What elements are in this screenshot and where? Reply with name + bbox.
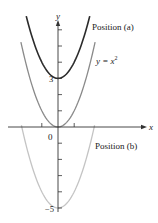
equation-label: y = x2 bbox=[95, 55, 118, 66]
position-a-label: Position (a) bbox=[92, 22, 134, 32]
origin-label: 0 bbox=[48, 132, 53, 142]
tick-label-3: 3 bbox=[49, 74, 53, 84]
equation-base: y = x bbox=[95, 56, 115, 66]
x-axis-arrow-icon bbox=[141, 125, 147, 129]
equation-exponent: 2 bbox=[115, 55, 118, 61]
x-axis-label: x bbox=[148, 122, 153, 132]
parabola-shift-diagram: y x 0 3 −5 Position (a) y = x2 Position … bbox=[0, 0, 158, 223]
tick-label-neg5: −5 bbox=[45, 204, 54, 214]
position-b-label: Position (b) bbox=[95, 141, 137, 151]
y-axis-label: y bbox=[55, 11, 60, 21]
